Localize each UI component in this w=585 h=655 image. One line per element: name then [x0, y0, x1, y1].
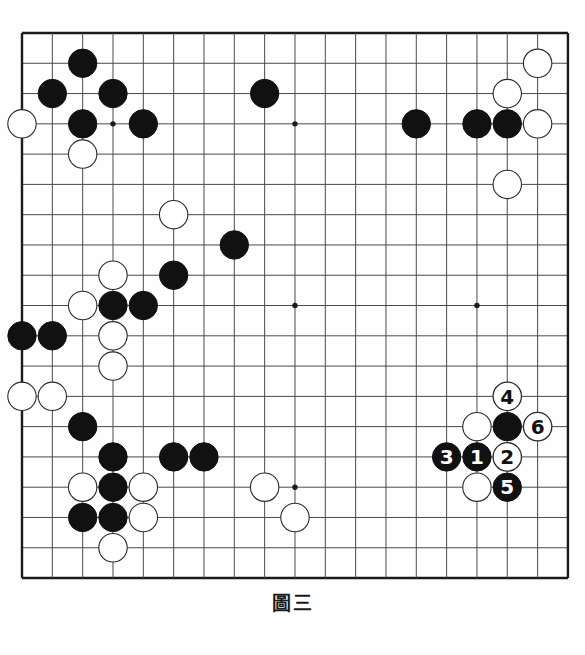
- numbered-move-stone[interactable]: 5: [493, 473, 521, 501]
- move-number-label: 1: [470, 445, 484, 469]
- figure-caption-row: 圖三: [0, 592, 585, 615]
- white-stone[interactable]: [523, 49, 551, 77]
- black-stone[interactable]: [68, 412, 96, 440]
- white-stone[interactable]: [38, 382, 66, 410]
- black-stone[interactable]: [220, 231, 248, 259]
- numbered-moves-layer[interactable]: 123456: [432, 382, 551, 501]
- black-stone[interactable]: [493, 110, 521, 138]
- star-point: [292, 485, 297, 490]
- numbered-move-stone[interactable]: 6: [523, 412, 551, 440]
- white-stone[interactable]: [68, 291, 96, 319]
- white-stone[interactable]: [463, 473, 491, 501]
- white-stone[interactable]: [281, 503, 309, 531]
- black-stone[interactable]: [402, 110, 430, 138]
- figure-caption: 圖三: [272, 592, 314, 615]
- black-stone[interactable]: [159, 261, 187, 289]
- move-number-label: 5: [500, 475, 514, 499]
- white-stone[interactable]: [523, 110, 551, 138]
- black-stone[interactable]: [38, 322, 66, 350]
- black-stone[interactable]: [99, 473, 127, 501]
- black-stone[interactable]: [99, 503, 127, 531]
- black-stone[interactable]: [99, 443, 127, 471]
- black-stone[interactable]: [129, 291, 157, 319]
- black-stone[interactable]: [250, 79, 278, 107]
- black-stone[interactable]: [463, 110, 491, 138]
- move-number-label: 6: [531, 415, 545, 439]
- go-board[interactable]: 123456: [0, 0, 585, 590]
- numbered-move-stone[interactable]: 3: [432, 443, 460, 471]
- black-stone[interactable]: [190, 443, 218, 471]
- black-stone[interactable]: [493, 412, 521, 440]
- star-point: [292, 121, 297, 126]
- black-stone[interactable]: [68, 110, 96, 138]
- black-stone[interactable]: [68, 49, 96, 77]
- white-stone[interactable]: [129, 503, 157, 531]
- star-point: [292, 303, 297, 308]
- black-stone[interactable]: [8, 322, 36, 350]
- go-diagram-figure: 123456 圖三: [0, 0, 585, 655]
- black-stone[interactable]: [99, 291, 127, 319]
- black-stone[interactable]: [159, 443, 187, 471]
- white-stone[interactable]: [68, 140, 96, 168]
- numbered-move-stone[interactable]: 1: [463, 443, 491, 471]
- black-stone[interactable]: [99, 79, 127, 107]
- move-number-label: 4: [500, 385, 514, 409]
- black-stone[interactable]: [129, 110, 157, 138]
- white-stone[interactable]: [99, 322, 127, 350]
- white-stone[interactable]: [493, 170, 521, 198]
- white-stone[interactable]: [8, 110, 36, 138]
- numbered-move-stone[interactable]: 4: [493, 382, 521, 410]
- black-stone[interactable]: [38, 79, 66, 107]
- white-stone[interactable]: [129, 473, 157, 501]
- star-point: [474, 303, 479, 308]
- white-stone[interactable]: [99, 261, 127, 289]
- move-number-label: 2: [500, 445, 514, 469]
- white-stone[interactable]: [8, 382, 36, 410]
- star-point: [110, 121, 115, 126]
- white-stone[interactable]: [99, 352, 127, 380]
- go-board-canvas[interactable]: 123456: [0, 0, 585, 590]
- white-stone[interactable]: [493, 79, 521, 107]
- move-number-label: 3: [440, 445, 454, 469]
- numbered-move-stone[interactable]: 2: [493, 443, 521, 471]
- white-stone[interactable]: [463, 412, 491, 440]
- white-stone[interactable]: [68, 473, 96, 501]
- white-stone[interactable]: [250, 473, 278, 501]
- white-stone[interactable]: [159, 200, 187, 228]
- black-stone[interactable]: [68, 503, 96, 531]
- white-stone[interactable]: [99, 534, 127, 562]
